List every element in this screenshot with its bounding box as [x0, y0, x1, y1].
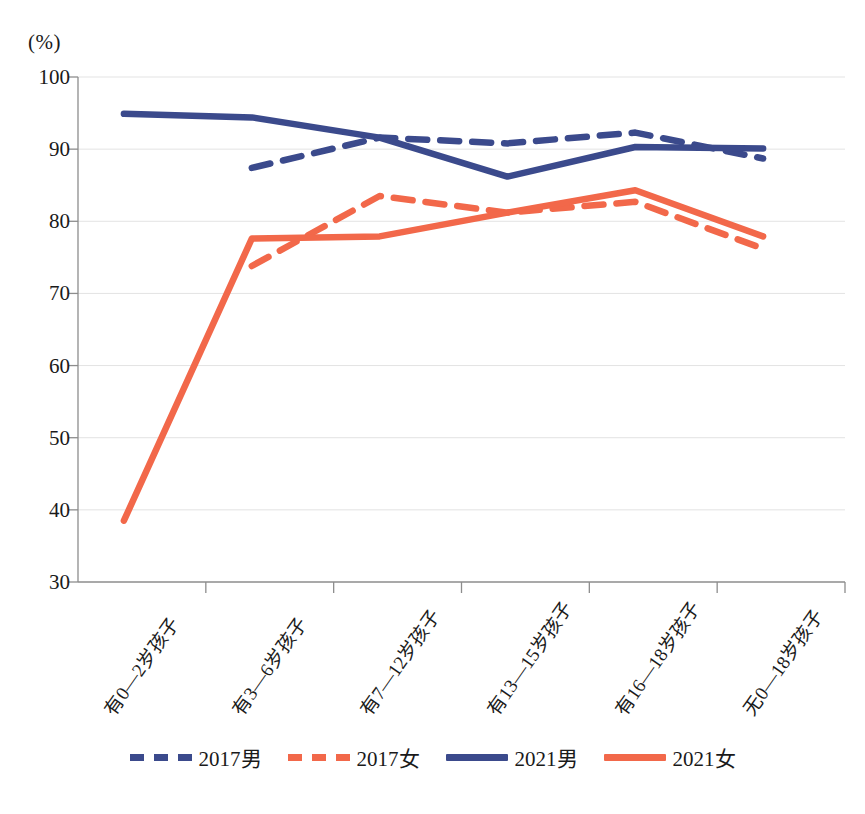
y-axis-tick-label: 40	[49, 497, 70, 522]
legend-label: 2017男	[199, 742, 262, 772]
series-line-2021男	[124, 114, 763, 177]
legend-swatch-icon	[446, 754, 508, 761]
series-line-2021女	[124, 190, 763, 520]
y-axis-tick-label: 30	[49, 570, 70, 595]
chart-legend: 2017男2017女2021男2021女	[0, 742, 865, 772]
legend-label: 2017女	[357, 742, 420, 772]
y-axis-tick-label: 50	[49, 425, 70, 450]
y-axis-tick-label: 100	[39, 65, 71, 90]
y-axis-tick-label: 60	[49, 353, 70, 378]
legend-label: 2021男	[515, 742, 578, 772]
legend-swatch-icon	[130, 754, 192, 761]
line-chart: (%) 10090807060504030 有0—2岁孩子有3—6岁孩子有7—1…	[0, 0, 865, 814]
y-axis-unit-label: (%)	[28, 30, 61, 55]
legend-swatch-icon	[604, 754, 666, 761]
legend-label: 2021女	[673, 742, 736, 772]
y-axis-tick-label: 80	[49, 209, 70, 234]
legend-item-2017男[interactable]: 2017男	[130, 742, 262, 772]
legend-item-2021男[interactable]: 2021男	[446, 742, 578, 772]
legend-item-2017女[interactable]: 2017女	[288, 742, 420, 772]
legend-swatch-icon	[288, 754, 350, 761]
legend-item-2021女[interactable]: 2021女	[604, 742, 736, 772]
y-axis-tick-label: 90	[49, 137, 70, 162]
y-axis-tick-label: 70	[49, 281, 70, 306]
